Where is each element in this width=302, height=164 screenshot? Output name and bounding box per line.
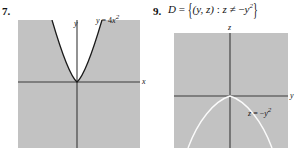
- textbook-answer-figure: 7. y x y = 4x2 9. D = {(y, z) : z ≠ −y2}: [0, 0, 302, 164]
- plot-panel-9: [174, 33, 288, 148]
- curve-label-9: z = −y2: [248, 110, 271, 118]
- close-brace: }: [253, 0, 258, 19]
- plot-svg-7: [18, 20, 140, 148]
- curve-label-7-rel: =: [100, 16, 109, 25]
- domain-symbol: D: [168, 3, 176, 15]
- curve-label-9-exponent: 2: [268, 106, 272, 114]
- open-brace: {: [188, 0, 193, 19]
- curve-label-7: y = 4x2: [96, 17, 119, 25]
- plot-svg-9: [174, 33, 288, 148]
- curve-label-9-rel: =: [251, 109, 260, 118]
- not-equal-symbol: ≠: [227, 3, 239, 15]
- axis-label-y-7: y: [74, 20, 78, 28]
- axis-label-y-9: y: [290, 92, 294, 100]
- domain-equals: =: [176, 3, 188, 15]
- figure-problem-7: 7. y x y = 4x2: [0, 0, 151, 164]
- axis-label-z-9: z: [228, 24, 231, 32]
- ordered-pair: (y, z): [192, 3, 213, 15]
- curve-label-7-exponent: 2: [116, 13, 120, 21]
- plot-panel-7: [18, 20, 140, 148]
- problem-number-7: 7.: [2, 6, 10, 17]
- axis-label-x-7: x: [142, 78, 146, 86]
- problem-number-9: 9.: [153, 6, 161, 17]
- domain-set-expression: D = {(y, z) : z ≠ −y2}: [168, 4, 258, 15]
